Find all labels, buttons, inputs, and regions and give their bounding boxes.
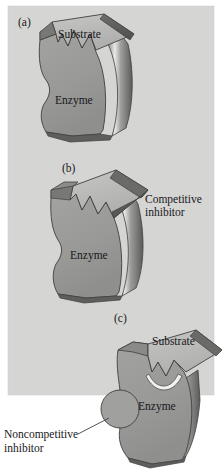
panel-c-inhibitor-label-line1: Noncompetitive (4, 428, 78, 441)
panel-c-substrate-label: Substrate (152, 335, 195, 347)
figure-canvas: (a) Substrate Enzyme (b) Competitive inh… (0, 0, 222, 470)
enzyme-inhibition-figure: (a) Substrate Enzyme (b) Competitive inh… (0, 0, 222, 470)
panel-a-substrate-label: Substrate (58, 28, 101, 40)
panel-c-enzyme-label: Enzyme (138, 400, 176, 413)
panel-b-inhibitor-label-line2: inhibitor (145, 206, 185, 218)
noncompetitive-inhibitor-shape (101, 390, 139, 428)
panel-b-label: (b) (62, 162, 76, 175)
panel-b-inhibitor-label-line1: Competitive (145, 193, 202, 206)
panel-c-inhibitor-label-line2: inhibitor (4, 442, 44, 454)
panel-a-enzyme-label: Enzyme (55, 94, 93, 107)
panel-b-enzyme-label: Enzyme (70, 249, 108, 262)
panel-a-label: (a) (18, 16, 31, 29)
panel-c-label: (c) (114, 312, 127, 325)
